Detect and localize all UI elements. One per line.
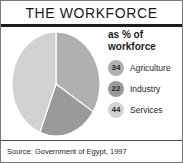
card-footer: Source: Government of Egypt, 1997: [1, 141, 182, 162]
legend-label-industry: Industry: [130, 84, 160, 94]
legend-badge-industry: 22: [108, 81, 124, 97]
card-body: as % of workforce 34 Agriculture 22 Indu…: [1, 27, 182, 140]
legend-label-agriculture: Agriculture: [130, 63, 171, 73]
page-title: THE WORKFORCE: [25, 5, 157, 21]
workforce-pie-chart-card: THE WORKFORCE as % of workforce 34 Agric…: [0, 0, 183, 163]
legend-item-services[interactable]: 44 Services: [108, 99, 182, 120]
pie-slices: [12, 32, 100, 136]
legend: as % of workforce 34 Agriculture 22 Indu…: [108, 29, 182, 120]
legend-item-agriculture[interactable]: 34 Agriculture: [108, 57, 182, 78]
pie-chart: [12, 32, 100, 136]
legend-heading: as % of workforce: [108, 29, 182, 52]
legend-badge-services: 44: [108, 102, 124, 118]
legend-label-services: Services: [130, 105, 163, 115]
source-note: Source: Government of Egypt, 1997: [7, 147, 127, 156]
legend-item-industry[interactable]: 22 Industry: [108, 78, 182, 99]
legend-badge-agriculture: 34: [108, 60, 124, 76]
card-header: THE WORKFORCE: [1, 1, 182, 24]
pie-chart-svg: [12, 32, 100, 136]
